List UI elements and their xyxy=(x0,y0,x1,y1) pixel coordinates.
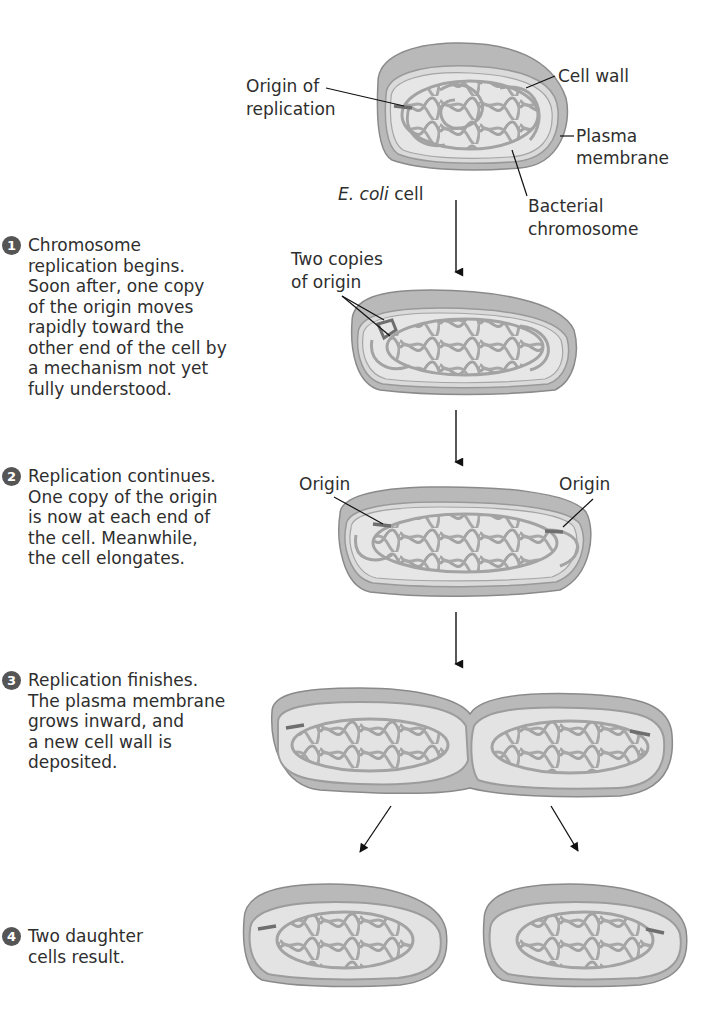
step-1-badge: 1 xyxy=(2,236,21,255)
label-plasma-membrane-line1: Plasma xyxy=(576,126,637,146)
label-bacterial-chromosome-line2: chromosome xyxy=(528,219,638,239)
step-2-badge: 2 xyxy=(2,467,21,486)
step-1-text: Chromosome replication begins. Soon afte… xyxy=(28,235,227,399)
label-two-copies-of-origin-line1: Two copies xyxy=(291,249,383,269)
label-ecoli-suffix: cell xyxy=(389,184,424,204)
daughter-cell-right xyxy=(484,884,687,986)
step-4-text: Two daughter cells result. xyxy=(28,926,143,967)
cell-step-3-dividing xyxy=(272,688,673,797)
label-origin-left: Origin xyxy=(299,474,350,494)
cell-step-2 xyxy=(339,487,591,596)
daughter-cell-left xyxy=(244,884,447,986)
label-ecoli-cell: E. coli cell xyxy=(338,184,423,204)
step-4-badge: 4 xyxy=(2,927,21,946)
label-origin-right: Origin xyxy=(559,474,610,494)
label-origin-of-replication-line1: Origin of xyxy=(246,76,319,96)
step-2-text: Replication continues. One copy of the o… xyxy=(28,466,218,569)
cell-step-1 xyxy=(352,290,577,395)
ecoli-cell xyxy=(377,43,567,170)
label-bacterial-chromosome-line1: Bacterial xyxy=(528,196,603,216)
label-two-copies-of-origin-line2: of origin xyxy=(291,272,361,292)
label-origin-of-replication-line2: replication xyxy=(246,99,336,119)
label-plasma-membrane-line2: membrane xyxy=(576,148,669,168)
label-ecoli-species: E. coli xyxy=(338,184,389,204)
step-3-text: Replication finishes. The plasma membran… xyxy=(28,670,225,773)
step-3-badge: 3 xyxy=(2,671,21,690)
label-cell-wall: Cell wall xyxy=(558,66,629,86)
